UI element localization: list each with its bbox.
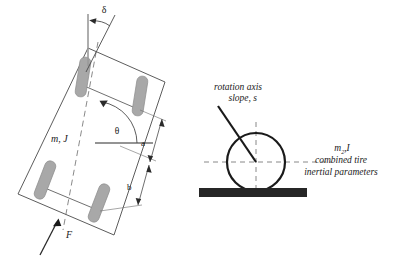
tire-params-label-line2: inertial parameters [304, 167, 378, 177]
dim-b-arrow-bottom [136, 198, 142, 205]
front-axle-line [82, 85, 140, 110]
tire-params-symbol-tail: ,I [344, 143, 350, 153]
tire-rotation-axis-view: rotation axis slope, s m2,I combined tir… [199, 82, 378, 197]
rotation-axis-label-line1: rotation axis [214, 82, 262, 92]
dim-b-arrow-top [146, 165, 151, 173]
dim-b-extension-bottom [100, 205, 142, 211]
tire-params-symbol: m2,I [334, 143, 350, 155]
heading-angle-label: θ [115, 126, 120, 136]
rear-right-tire [87, 182, 112, 223]
steer-direction-line [86, 15, 115, 72]
mass-inertia-label: m, J [51, 133, 68, 144]
force-label: F [65, 229, 73, 240]
heading-angle-arc [102, 102, 137, 143]
figure-canvas: δ θ m, J a b F [0, 0, 401, 265]
vehicle-plan-view: δ θ m, J a b F [18, 4, 166, 255]
steer-angle-label: δ [102, 4, 107, 15]
force-arrowhead [53, 219, 61, 227]
figure-root: δ θ m, J a b F [0, 0, 401, 265]
rear-left-tire [33, 159, 58, 200]
dim-a-arrow-bottom [148, 155, 154, 162]
front-right-tire [131, 75, 148, 116]
steer-angle-arrowhead [89, 18, 96, 24]
heading-angle-arrowhead [100, 101, 108, 108]
tire-params-label-line1: combined tire [315, 155, 367, 165]
dim-b-label: b [127, 182, 132, 192]
dim-a-label: a [141, 138, 145, 148]
force-arrow-shaft [40, 222, 57, 255]
ground-bar [199, 188, 307, 197]
rotation-axis-label-line2: slope, s [229, 93, 258, 103]
